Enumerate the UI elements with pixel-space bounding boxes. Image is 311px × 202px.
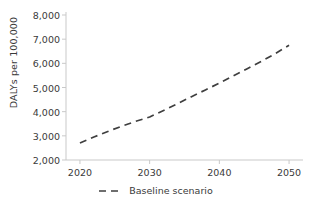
chart-legend: Baseline scenario — [0, 185, 311, 196]
series-line-baseline-scenario — [80, 45, 289, 143]
plot-area — [0, 0, 311, 202]
chart-container: DALYs per 100,000 2,0003,0004,0005,0006,… — [0, 0, 311, 202]
axis-tick-marks — [62, 15, 289, 164]
axis-lines — [66, 12, 303, 160]
legend-label-baseline: Baseline scenario — [129, 185, 213, 196]
dashed-line-icon — [98, 187, 124, 195]
data-series-group — [80, 45, 289, 143]
